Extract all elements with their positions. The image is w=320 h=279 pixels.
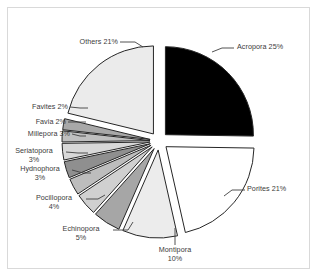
slice-label-pocillopora-line2: 4% [24, 203, 84, 212]
leader-line-acropora [212, 48, 234, 52]
slice-label-echinopora: Echinopora 5% [51, 225, 111, 242]
slice-label-others: Others 21% [58, 38, 118, 47]
slice-label-millepora-line1: Millepora 3% [4, 130, 70, 139]
slice-label-millepora: Millepora 3% [4, 130, 70, 139]
pie-slice-group [62, 46, 254, 238]
slice-label-hydnophora: Hydnophora 3% [10, 165, 70, 182]
slice-label-echinopora-line2: 5% [51, 234, 111, 243]
slice-label-porites-line1: Porites 21% [247, 185, 286, 194]
pie-slice-acropora[interactable] [165, 47, 253, 136]
slice-label-porites: Porites 21% [247, 185, 286, 194]
slice-label-montipora-line2: 10% [146, 255, 204, 264]
pie-slice-others[interactable] [68, 46, 154, 134]
slice-label-favites: Favites 2% [6, 103, 68, 112]
slice-label-favia: Favia 2% [6, 118, 66, 127]
slice-label-pocillopora: Pocillopora 4% [24, 194, 84, 211]
slice-label-acropora: Acropora 25% [237, 43, 283, 52]
leader-line-others [120, 42, 143, 47]
pie-chart-figure: Acropora 25% Porites 21% Montipora 10% E… [0, 0, 320, 279]
slice-label-favites-line1: Favites 2% [6, 103, 68, 112]
slice-label-others-line1: Others 21% [58, 38, 118, 47]
slice-label-montipora: Montipora 10% [146, 246, 204, 263]
slice-label-acropora-line1: Acropora 25% [237, 43, 283, 52]
slice-label-hydnophora-line2: 3% [10, 174, 70, 183]
slice-label-seriatopora-line2: 3% [4, 156, 64, 165]
slice-label-favia-line1: Favia 2% [6, 118, 66, 127]
slice-label-seriatopora: Seriatopora 3% [4, 147, 64, 164]
